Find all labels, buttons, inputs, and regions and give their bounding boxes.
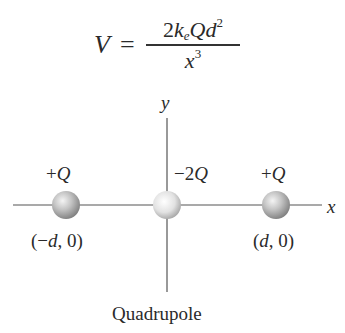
x-axis-label: x <box>327 197 335 216</box>
coordinate-label-left: (−d, 0) <box>31 231 83 250</box>
charge-sphere-right <box>262 191 290 219</box>
charge-sphere-left <box>52 191 80 219</box>
charge-label-left: +Q <box>46 164 70 183</box>
charge-label-center: −2Q <box>174 164 208 183</box>
coordinate-label-right: (d, 0) <box>253 231 294 250</box>
diagram-caption: Quadrupole <box>112 304 202 323</box>
charge-sphere-center <box>153 191 181 219</box>
y-axis-label: y <box>161 93 169 112</box>
charge-label-right: +Q <box>261 164 285 183</box>
